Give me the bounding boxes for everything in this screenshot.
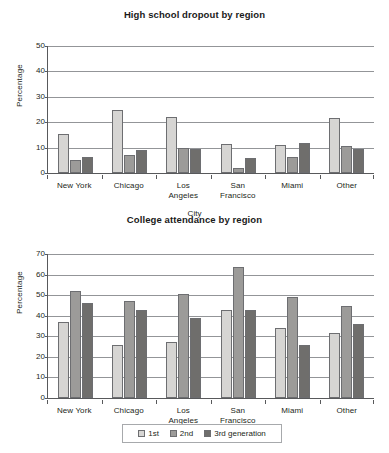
bar-group [265,254,319,398]
chart-legend: 1st2nd3rd generation [122,424,282,443]
bar-group [211,254,265,398]
bar [329,333,340,398]
chart-high-school-dropout: High school dropout by region Percentage… [0,0,389,205]
y-tick-label: 30 [36,93,45,101]
bar [275,145,286,173]
bar [112,110,123,174]
bar [287,157,298,174]
bar [178,148,189,173]
bar-group [211,46,265,173]
bar [166,117,177,173]
bar [221,144,232,173]
bar [245,158,256,173]
bar-group [48,46,102,173]
x-tick: Miami [265,175,320,201]
y-tick-label: 70 [36,250,45,258]
bar [221,310,232,398]
x-tick: LosAngeles [156,175,211,201]
bar [233,267,244,398]
x-axis-ticks-top: New YorkChicagoLosAngelesSanFranciscoMia… [47,175,374,201]
bar [190,149,201,173]
bar [124,301,135,398]
legend-label: 3rd generation [214,429,266,438]
legend-item: 3rd generation [204,429,266,438]
x-tick: Chicago [102,400,157,426]
bar [233,168,244,173]
y-tick-label: 50 [36,291,45,299]
plot-frame-bottom: 010203040506070 [47,254,374,398]
legend-swatch-icon [204,430,211,437]
y-axis-label-top: Percentage [15,56,24,116]
x-tick: New York [47,400,102,426]
chart-college-attendance: College attendance by region Percentage … [0,205,389,453]
bar-group [48,254,102,398]
y-tick-mark [45,398,48,399]
bar [82,303,93,398]
x-tick-label: SanFrancisco [211,400,266,426]
x-tick-label: Miami [265,175,320,191]
bar-group [320,254,374,398]
x-tick: Chicago [102,175,157,201]
plot-frame-top: 01020304050 [47,46,374,173]
x-tick: Other [320,400,375,426]
x-tick: Other [320,175,375,201]
x-tick: LosAngeles [156,400,211,426]
x-tick: New York [47,175,102,201]
bar [166,342,177,398]
y-tick-label: 40 [36,67,45,75]
bar [353,149,364,173]
bar [70,160,81,173]
x-axis-ticks-bottom: New YorkChicagoLosAngelesSanFranciscoMia… [47,400,374,426]
x-tick: SanFrancisco [211,175,266,201]
bar-groups [48,46,374,173]
bar-group [320,46,374,173]
bar [70,291,81,398]
x-tick-label: New York [47,175,102,191]
bar [341,146,352,173]
bar-group [157,46,211,173]
x-tick-label: Miami [265,400,320,416]
y-tick-label: 10 [36,144,45,152]
chart-page: { "chart_data": [ { "type": "bar", "id":… [0,0,389,453]
x-tick: Miami [265,400,320,426]
chart-title-bottom: College attendance by region [0,205,389,226]
bar [245,310,256,398]
y-tick-label: 10 [36,373,45,381]
y-tick-label: 60 [36,271,45,279]
x-tick-label: LosAngeles [156,175,211,201]
x-tick-label: LosAngeles [156,400,211,426]
bar [353,324,364,398]
bar-group [102,46,156,173]
bar-group [102,254,156,398]
y-tick-label: 0 [41,169,45,177]
legend-item: 1st [138,429,159,438]
legend-swatch-icon [138,430,145,437]
y-tick-label: 40 [36,312,45,320]
x-tick-label: New York [47,400,102,416]
legend-label: 1st [148,429,159,438]
legend-swatch-icon [170,430,177,437]
chart-title-top: High school dropout by region [0,0,389,21]
bar [112,345,123,398]
bar-group [157,254,211,398]
x-tick-label: Chicago [102,400,157,416]
bar [287,297,298,398]
bar [82,157,93,174]
y-axis-label-bottom: Percentage [15,263,24,323]
y-tick-mark [45,173,48,174]
y-tick-label: 50 [36,42,45,50]
legend-label: 2nd [180,429,193,438]
bar [299,143,310,173]
bar [58,322,69,398]
bar [190,318,201,398]
bar [329,118,340,173]
bar [275,328,286,398]
y-tick-label: 30 [36,332,45,340]
gridline [48,173,374,174]
x-tick-label: Other [320,175,375,191]
bar [136,150,147,173]
y-tick-label: 20 [36,118,45,126]
gridline [48,398,374,399]
bar [124,155,135,173]
y-tick-label: 0 [41,394,45,402]
